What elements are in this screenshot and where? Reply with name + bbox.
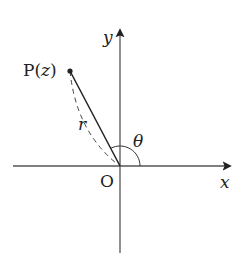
radius-label: r — [78, 114, 87, 134]
angle-label: θ — [133, 131, 143, 151]
point-p — [67, 68, 72, 73]
point-label: P(z) — [23, 60, 57, 80]
origin-label: O — [100, 171, 114, 191]
x-axis-label: x — [220, 172, 230, 192]
y-axis-label: y — [102, 27, 113, 47]
complex-plane-diagram: P(z) y x O r θ — [0, 0, 248, 261]
